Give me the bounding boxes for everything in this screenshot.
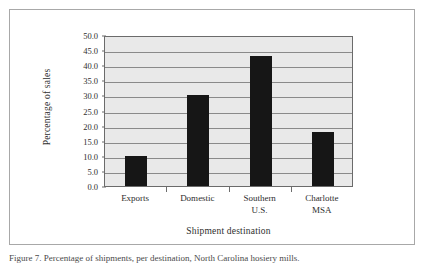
x-axis-tick-marks bbox=[104, 187, 353, 192]
x-axis-tick-label-line: Charlotte bbox=[291, 193, 353, 205]
x-axis-tick-label-line: Domestic bbox=[166, 193, 228, 205]
x-axis-tick-label-line: U.S. bbox=[229, 205, 291, 217]
y-axis-tick-labels: 50.045.040.035.030.025.020.015.010.05.00… bbox=[66, 31, 102, 187]
y-axis-tick-label: 15.0 bbox=[83, 137, 98, 146]
x-axis-title: Shipment destination bbox=[104, 226, 353, 236]
y-axis-tick-label: 45.0 bbox=[83, 47, 98, 56]
bar[interactable] bbox=[125, 156, 147, 186]
x-axis-tick-label: SouthernU.S. bbox=[229, 193, 291, 216]
y-axis-tick-label: 40.0 bbox=[83, 62, 98, 71]
figure-frame: Percentage of sales 50.045.040.035.030.0… bbox=[9, 9, 415, 245]
x-axis-tick-mark bbox=[291, 187, 292, 192]
y-axis-tick-label: 0.0 bbox=[87, 183, 98, 192]
bar[interactable] bbox=[312, 132, 334, 186]
bar-slot bbox=[230, 37, 292, 186]
figure-caption: Figure 7. Percentage of shipments, per d… bbox=[9, 253, 417, 265]
y-axis-tick-label: 50.0 bbox=[83, 32, 98, 41]
bar-chart: Percentage of sales 50.045.040.035.030.0… bbox=[10, 10, 416, 246]
y-axis-tick-label: 20.0 bbox=[83, 122, 98, 131]
y-axis-tick-label: 25.0 bbox=[83, 107, 98, 116]
y-axis-title: Percentage of sales bbox=[42, 47, 52, 167]
y-axis-tick-label: 10.0 bbox=[83, 153, 98, 162]
y-axis-tick-label: 5.0 bbox=[87, 168, 98, 177]
x-axis-tick-label-line: MSA bbox=[291, 205, 353, 217]
bar-slot bbox=[167, 37, 229, 186]
x-axis-tick-mark bbox=[166, 187, 167, 192]
x-axis-tick-label-line: Exports bbox=[104, 193, 166, 205]
x-axis-tick-label-line: Southern bbox=[229, 193, 291, 205]
x-axis-tick-mark bbox=[229, 187, 230, 192]
x-axis-tick-label: Exports bbox=[104, 193, 166, 205]
y-axis-tick-label: 30.0 bbox=[83, 92, 98, 101]
y-axis-tick-label: 35.0 bbox=[83, 77, 98, 86]
bar[interactable] bbox=[250, 56, 272, 186]
bar[interactable] bbox=[187, 95, 209, 186]
x-axis-tick-labels: ExportsDomesticSouthernU.S.CharlotteMSA bbox=[104, 193, 353, 227]
bar-slot bbox=[105, 37, 167, 186]
bar-slot bbox=[292, 37, 354, 186]
x-axis-tick-label: CharlotteMSA bbox=[291, 193, 353, 216]
plot-area bbox=[104, 36, 353, 187]
x-axis-tick-label: Domestic bbox=[166, 193, 228, 205]
bars-layer bbox=[105, 37, 352, 186]
